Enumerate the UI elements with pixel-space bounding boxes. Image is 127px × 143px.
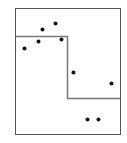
data-point	[71, 71, 75, 75]
data-point	[36, 40, 40, 44]
data-point	[86, 118, 90, 122]
step-line	[16, 36, 121, 98]
data-point	[59, 37, 63, 41]
data-point	[96, 118, 100, 122]
data-point	[40, 28, 44, 32]
chart	[0, 0, 127, 143]
step-function	[16, 36, 121, 98]
data-point	[109, 81, 113, 85]
data-point	[23, 46, 27, 50]
data-point	[54, 21, 58, 25]
